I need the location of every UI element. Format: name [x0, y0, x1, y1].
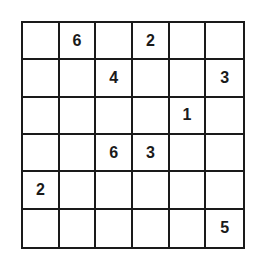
- grid-cell-r6-c4[interactable]: [133, 210, 170, 247]
- grid-cell-r6-c1[interactable]: [23, 210, 60, 247]
- grid-cell-r4-c6[interactable]: [206, 135, 243, 172]
- grid-cell-r6-c5[interactable]: [170, 210, 207, 247]
- grid-cell-r3-c2[interactable]: [60, 98, 97, 135]
- grid-cell-r4-c4[interactable]: 3: [133, 135, 170, 172]
- grid-cell-r2-c1[interactable]: [23, 60, 60, 97]
- grid-cell-r1-c3[interactable]: [96, 23, 133, 60]
- grid-cell-r2-c5[interactable]: [170, 60, 207, 97]
- grid-cell-r5-c3[interactable]: [96, 172, 133, 209]
- grid-cell-r5-c1[interactable]: 2: [23, 172, 60, 209]
- grid-cell-r6-c6[interactable]: 5: [206, 210, 243, 247]
- grid-cell-r4-c1[interactable]: [23, 135, 60, 172]
- grid-cell-r1-c1[interactable]: [23, 23, 60, 60]
- grid-cell-r5-c5[interactable]: [170, 172, 207, 209]
- grid-cell-r5-c4[interactable]: [133, 172, 170, 209]
- puzzle-grid: 624316325: [21, 21, 245, 249]
- grid-cell-r1-c5[interactable]: [170, 23, 207, 60]
- grid-cell-r4-c2[interactable]: [60, 135, 97, 172]
- grid-cell-r2-c4[interactable]: [133, 60, 170, 97]
- grid-cell-r3-c4[interactable]: [133, 98, 170, 135]
- grid-cell-r2-c3[interactable]: 4: [96, 60, 133, 97]
- grid-cell-r4-c3[interactable]: 6: [96, 135, 133, 172]
- grid-cell-r1-c2[interactable]: 6: [60, 23, 97, 60]
- grid-cell-r6-c3[interactable]: [96, 210, 133, 247]
- grid-cell-r1-c6[interactable]: [206, 23, 243, 60]
- grid-cell-r4-c5[interactable]: [170, 135, 207, 172]
- grid-cell-r3-c1[interactable]: [23, 98, 60, 135]
- grid-cell-r5-c6[interactable]: [206, 172, 243, 209]
- grid-cell-r5-c2[interactable]: [60, 172, 97, 209]
- grid-cell-r2-c2[interactable]: [60, 60, 97, 97]
- grid-cell-r6-c2[interactable]: [60, 210, 97, 247]
- grid-cell-r3-c6[interactable]: [206, 98, 243, 135]
- grid-cell-r1-c4[interactable]: 2: [133, 23, 170, 60]
- grid-cell-r3-c5[interactable]: 1: [170, 98, 207, 135]
- grid-cell-r3-c3[interactable]: [96, 98, 133, 135]
- grid-cell-r2-c6[interactable]: 3: [206, 60, 243, 97]
